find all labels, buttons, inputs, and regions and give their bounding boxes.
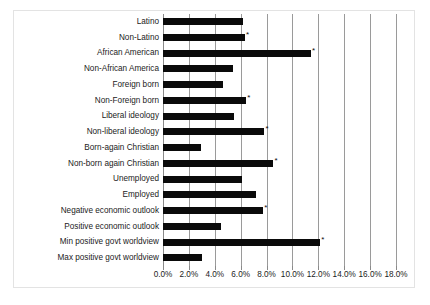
bar-row	[163, 187, 396, 202]
bar-row	[163, 219, 396, 234]
bar	[163, 191, 256, 198]
bar-row: *	[163, 235, 396, 250]
category-label: Latino	[137, 17, 159, 27]
x-tick-label: 16.0%	[359, 270, 382, 280]
category-label: Non-Latino	[119, 33, 159, 43]
bar	[163, 239, 320, 246]
bar-row: *	[163, 30, 396, 45]
bar-row	[163, 250, 396, 265]
bar-row	[163, 77, 396, 92]
x-tick-label: 4.0%	[205, 270, 224, 280]
bar	[163, 223, 221, 230]
x-tick-label: 14.0%	[333, 270, 356, 280]
category-label: Non-liberal ideology	[87, 127, 159, 137]
bar-row: *	[163, 93, 396, 108]
significance-marker: *	[275, 157, 278, 165]
plot-area: *******	[163, 14, 396, 266]
x-tick-label: 12.0%	[307, 270, 330, 280]
category-label: Non-born again Christian	[68, 159, 159, 169]
bar	[163, 18, 243, 25]
bar	[163, 65, 233, 72]
bar	[163, 160, 273, 167]
x-tick-label: 6.0%	[231, 270, 250, 280]
category-label: Born-again Christian	[84, 143, 159, 153]
bar-chart-figure: LatinoNon-LatinoAfrican AmericanNon-Afri…	[0, 0, 430, 305]
category-label: Foreign born	[113, 80, 159, 90]
category-label: Non-Foreign born	[95, 96, 159, 106]
category-axis-labels: LatinoNon-LatinoAfrican AmericanNon-Afri…	[20, 14, 159, 266]
significance-marker: *	[312, 47, 315, 55]
bar	[163, 97, 246, 104]
category-label: Liberal ideology	[102, 111, 159, 121]
x-tick-label: 2.0%	[180, 270, 199, 280]
significance-marker: *	[265, 125, 268, 133]
category-label: Employed	[123, 190, 159, 200]
x-tick-label: 8.0%	[257, 270, 276, 280]
x-tick-label: 18.0%	[384, 270, 407, 280]
bar-row: *	[163, 46, 396, 61]
category-label: Positive economic outlook	[64, 222, 159, 232]
bar-row	[163, 14, 396, 29]
bar-row	[163, 61, 396, 76]
bar	[163, 34, 245, 41]
category-label: Unemployed	[113, 174, 159, 184]
significance-marker: *	[264, 204, 267, 212]
bar-row: *	[163, 203, 396, 218]
category-label: Non-African America	[84, 64, 159, 74]
bar	[163, 113, 234, 120]
bar-row: *	[163, 156, 396, 171]
bar	[163, 144, 201, 151]
bar-row	[163, 172, 396, 187]
x-tick-label: 0.0%	[154, 270, 173, 280]
bar	[163, 207, 263, 214]
x-tick-label: 10.0%	[281, 270, 304, 280]
bar	[163, 81, 223, 88]
significance-marker: *	[246, 31, 249, 39]
bar-row	[163, 109, 396, 124]
bar-row	[163, 140, 396, 155]
category-label: African American	[97, 48, 159, 58]
significance-marker: *	[321, 236, 324, 244]
bar	[163, 176, 242, 183]
significance-marker: *	[247, 94, 250, 102]
category-label: Max positive govt worldview	[58, 253, 159, 263]
bar	[163, 254, 202, 261]
bar	[163, 128, 264, 135]
gridline-18	[396, 14, 397, 266]
bar-row: *	[163, 124, 396, 139]
category-label: Min positive govt worldview	[60, 237, 159, 247]
category-label: Negative economic outlook	[61, 206, 159, 216]
bar	[163, 50, 311, 57]
